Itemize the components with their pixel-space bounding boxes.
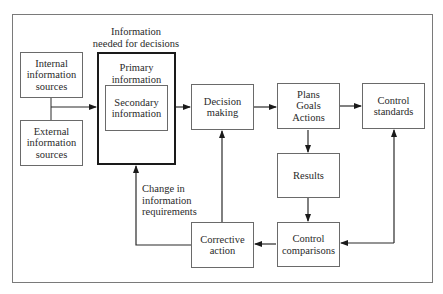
node-secondary-information: Secondary information [105, 85, 168, 131]
node-control-standards-label: Control standards [374, 95, 414, 118]
node-primary-information-label: Primary information [99, 62, 174, 85]
node-plans-goals-actions: Plans Goals Actions [277, 83, 340, 129]
node-decision-making: Decision making [191, 84, 254, 130]
node-plans-goals-actions-label: Plans Goals Actions [292, 89, 325, 124]
node-internal-sources: Internal information sources [20, 52, 83, 98]
node-results-label: Results [293, 170, 324, 182]
node-corrective-action-label: Corrective action [200, 234, 244, 257]
node-results: Results [277, 153, 340, 198]
node-external-sources-label: External information sources [27, 126, 77, 161]
node-secondary-information-label: Secondary information [112, 97, 162, 120]
node-control-comparisons-label: Control comparisons [282, 233, 335, 256]
header-label: Information needed for decisions [86, 26, 186, 49]
node-internal-sources-label: Internal information sources [27, 58, 77, 93]
node-control-comparisons: Control comparisons [277, 222, 340, 267]
node-control-standards: Control standards [362, 83, 425, 129]
node-corrective-action: Corrective action [191, 222, 254, 268]
node-decision-making-label: Decision making [204, 96, 241, 119]
node-external-sources: External information sources [20, 120, 83, 166]
edge-label-change-in-requirements: Change in information requirements [142, 183, 197, 218]
